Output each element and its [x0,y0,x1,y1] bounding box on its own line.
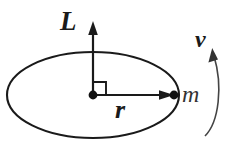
mass-dot [170,91,179,100]
label-mass: m [182,82,199,106]
label-velocity: v [195,27,206,51]
label-radius: r [115,97,125,123]
velocity-arc [205,56,219,136]
angular-momentum-arrowhead [88,21,98,35]
diagram-canvas [0,0,237,151]
velocity-arrowhead [208,48,218,63]
center-dot [89,91,98,100]
label-angular-momentum: L [60,8,77,35]
physics-figure: L r m v [0,0,237,151]
